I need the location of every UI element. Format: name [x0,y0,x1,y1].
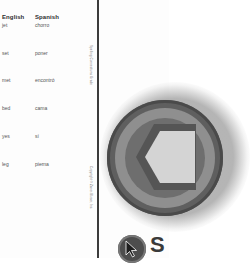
english-word: leg [2,161,9,167]
partial-heading-letter: S [150,234,165,256]
cursor-button [118,235,146,263]
english-word: yes [2,133,10,139]
spanish-word: cama [35,105,47,111]
spanish-word: encontró [35,77,54,83]
english-word: bed [2,105,10,111]
word-row: bed cama [2,105,82,113]
english-word: set [2,50,9,56]
word-row: leg pierna [2,161,82,169]
vertical-divider [97,0,99,258]
english-word: jet [2,22,7,28]
series-title-vertical: Spelling Connections Grade [89,45,93,85]
word-row: set poner [2,50,82,58]
english-word: met [2,77,10,83]
word-row: yes sí [2,133,82,141]
spanish-word: chorro [35,22,49,28]
cursor-arrow-icon [125,240,139,258]
spanish-word: pierna [35,161,49,167]
word-row: jet chorro [2,22,82,30]
spanish-word: poner [35,50,48,56]
spanish-word: sí [35,133,39,139]
copyright-vertical: Copyright © Zaner-Bloser, Inc. [89,166,93,209]
header-spanish: Spanish [35,14,59,20]
word-row: met encontró [2,77,82,85]
header-english: English [2,14,24,20]
